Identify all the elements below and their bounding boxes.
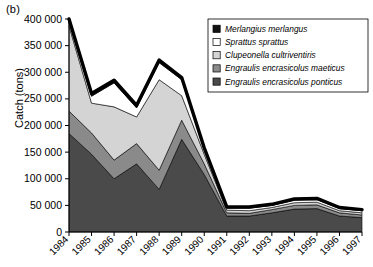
legend-label: Clupeonella cultriventiris bbox=[225, 50, 317, 60]
y-tick-label: 300 000 bbox=[24, 66, 62, 78]
y-tick-label: 200 000 bbox=[24, 119, 62, 131]
y-tick-label: 250 000 bbox=[24, 92, 62, 104]
x-tick-label: 1997 bbox=[340, 233, 364, 257]
y-tick-label: 350 000 bbox=[24, 39, 62, 51]
panel-label: (b) bbox=[6, 3, 20, 15]
legend-swatch bbox=[213, 25, 220, 32]
legend-label: Sprattus sprattus bbox=[225, 37, 289, 47]
legend: Merlangius merlangusSprattus sprattusClu… bbox=[208, 19, 368, 92]
x-tick-label: 1996 bbox=[317, 233, 341, 257]
legend-label: Merlangius merlangus bbox=[225, 24, 308, 34]
figure-panel-b: (b) Catch (tons) 400 000350 000300 00025… bbox=[0, 0, 373, 267]
x-tick-label: 1984 bbox=[47, 233, 71, 257]
x-tick-label: 1995 bbox=[295, 233, 319, 257]
y-tick-label: 100 000 bbox=[24, 172, 62, 184]
x-tick-label: 1989 bbox=[160, 233, 184, 257]
legend-label: Engraulis encrasicolus ponticus bbox=[225, 77, 343, 87]
legend-swatch bbox=[213, 52, 220, 59]
x-tick-label: 1990 bbox=[182, 233, 206, 257]
y-axis-ticks: 400 000350 000300 000250 000200 000150 0… bbox=[24, 13, 69, 238]
y-axis-title: Catch (tons) bbox=[13, 43, 25, 153]
stacked-area-chart: 400 000350 000300 000250 000200 000150 0… bbox=[0, 0, 373, 267]
x-tick-label: 1987 bbox=[115, 233, 139, 257]
y-tick-label: 50 000 bbox=[30, 199, 62, 211]
x-tick-label: 1992 bbox=[227, 233, 251, 257]
x-axis-ticks: 1984198519861987198819891990199119921993… bbox=[47, 232, 364, 257]
x-tick-label: 1985 bbox=[69, 233, 93, 257]
x-tick-label: 1986 bbox=[92, 233, 116, 257]
legend-swatch bbox=[213, 65, 220, 72]
x-tick-label: 1993 bbox=[250, 233, 274, 257]
y-tick-label: 400 000 bbox=[24, 13, 62, 25]
x-tick-label: 1988 bbox=[137, 233, 161, 257]
legend-label: Engraulis encrasicolus maeticus bbox=[225, 63, 345, 73]
x-tick-label: 1991 bbox=[205, 233, 229, 257]
y-tick-label: 150 000 bbox=[24, 146, 62, 158]
x-tick-label: 1994 bbox=[272, 233, 296, 257]
legend-swatch bbox=[213, 38, 220, 45]
legend-swatch bbox=[213, 78, 220, 85]
